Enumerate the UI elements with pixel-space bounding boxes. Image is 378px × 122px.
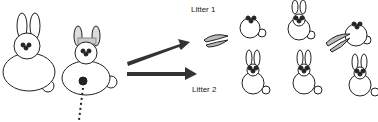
father-rabbit	[3, 13, 55, 92]
litter-1-label: Litter 1	[191, 5, 215, 14]
litter-2-label: Litter 2	[192, 85, 216, 94]
offspring-4	[242, 50, 270, 94]
offspring-2	[288, 0, 315, 40]
litter-1	[204, 0, 371, 52]
dropped-ears-1	[204, 35, 228, 47]
litter-2	[242, 50, 378, 96]
offspring-5	[293, 50, 322, 94]
offspring-6	[349, 54, 378, 96]
mother-rabbit	[62, 26, 117, 120]
offspring-1	[240, 16, 266, 38]
rabbit-litter-diagram	[0, 0, 378, 122]
arrows	[127, 39, 197, 80]
